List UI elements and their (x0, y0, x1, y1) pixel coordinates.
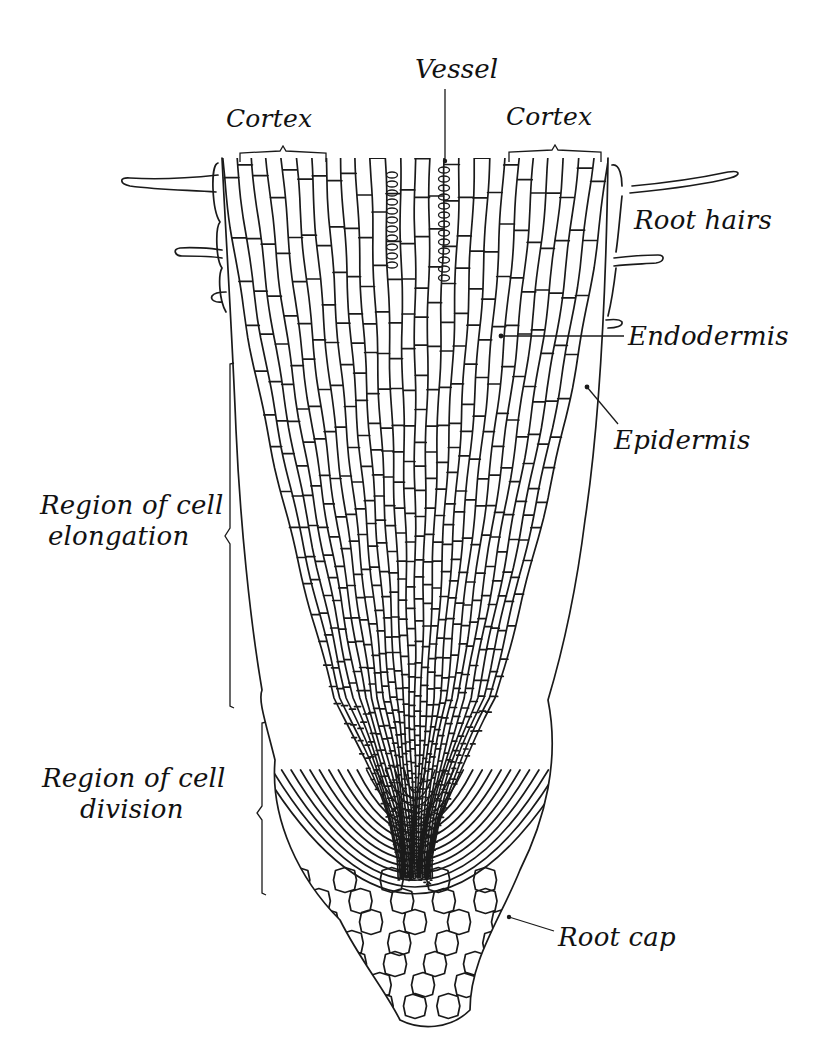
label-vessel: Vessel (415, 54, 498, 85)
label-cortex-left: Cortex (226, 103, 312, 134)
cell-grid (223, 158, 609, 1019)
division-bracket (257, 722, 266, 895)
vessel-elements (387, 167, 450, 281)
label-cortex-right: Cortex (506, 101, 592, 132)
cortex-left-bracket (240, 146, 326, 162)
label-region-elongation-line2: elongation (40, 521, 224, 552)
endodermis-leader-dot (499, 334, 504, 339)
root-hairs-right (606, 165, 738, 328)
cortex-right-bracket (509, 145, 601, 162)
epidermis-leader-line (587, 387, 618, 424)
vessel-leader-dot (443, 159, 447, 163)
root-cap-leader-line (509, 917, 554, 931)
label-root-hairs: Root hairs (634, 205, 772, 236)
label-epidermis: Epidermis (614, 425, 751, 456)
elongation-bracket (225, 363, 234, 708)
epidermis-leader-dot (585, 385, 590, 390)
label-root-cap: Root cap (558, 922, 676, 953)
label-region-division-line1: Region of cell (42, 763, 226, 794)
label-region-division: Region of cell division (42, 763, 226, 825)
label-region-division-line2: division (42, 794, 226, 825)
label-region-elongation-line1: Region of cell (40, 490, 224, 521)
label-endodermis: Endodermis (628, 321, 789, 352)
label-region-elongation: Region of cell elongation (40, 490, 224, 552)
root-hairs-left (122, 163, 226, 312)
root-cap-leader-dot (507, 915, 511, 919)
